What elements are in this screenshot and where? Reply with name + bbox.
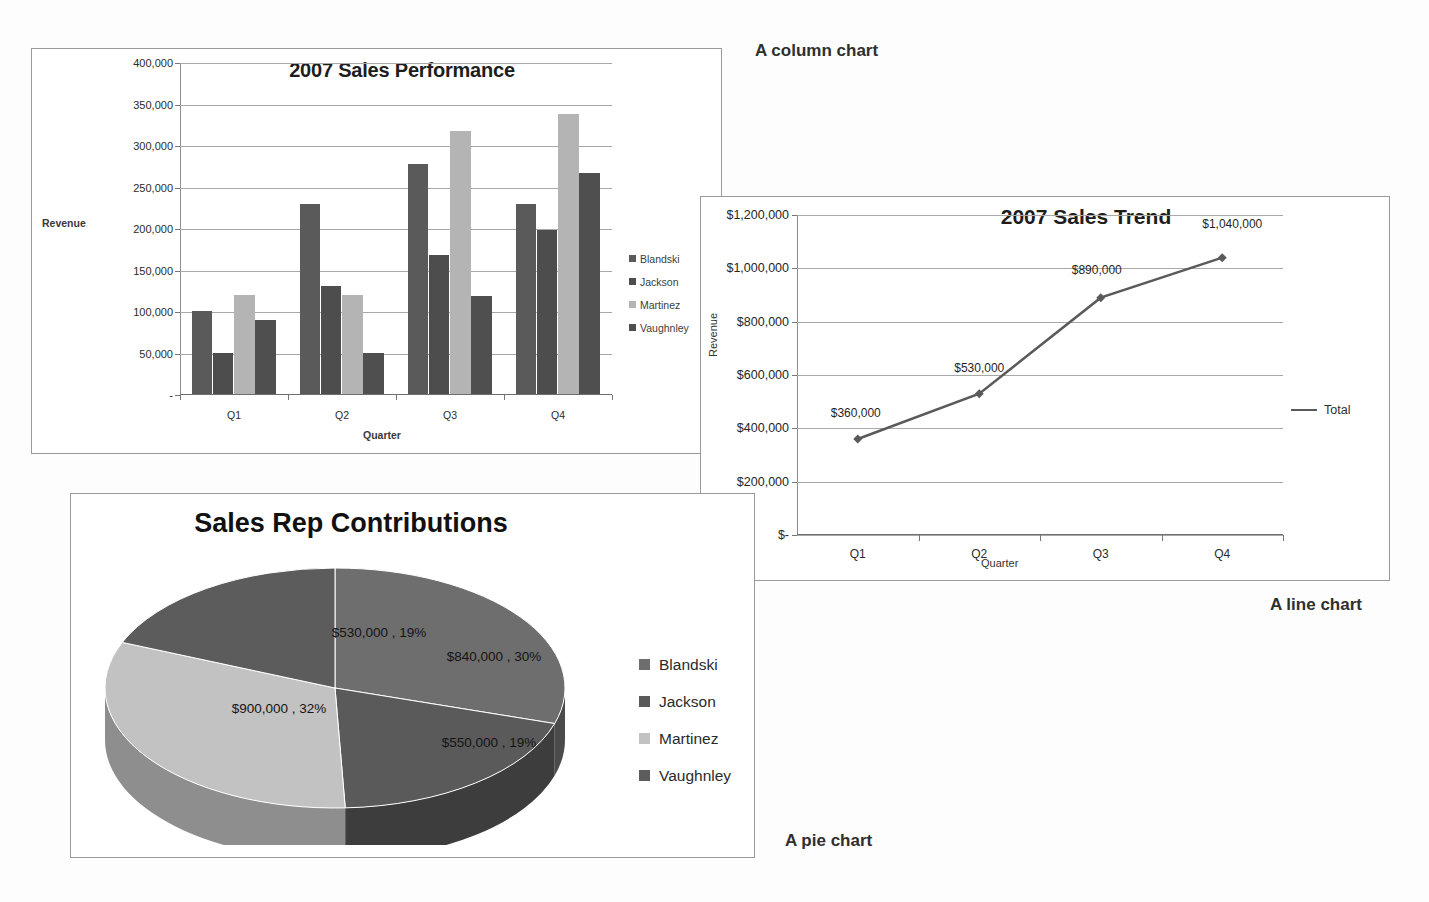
pie-data-label-martinez: $900,000 , 32% [232, 701, 327, 716]
line-chart-y-axis-title: Revenue [707, 313, 719, 357]
data-point-q4 [1218, 253, 1227, 262]
bar-jackson-q4 [537, 230, 558, 394]
y-tick-label: 300,000 [133, 140, 173, 152]
column-chart-x-axis-title: Quarter [142, 429, 622, 441]
bar-blandski-q4 [516, 204, 537, 394]
legend-item-jackson[interactable]: Jackson [639, 683, 731, 720]
x-tick-mark [504, 395, 505, 400]
line-chart-plot-area: $-$200,000$400,000$600,000$800,000$1,000… [797, 215, 1283, 535]
data-point-q1 [853, 435, 862, 444]
bar-vaughnley-q2 [363, 353, 384, 395]
bar-vaughnley-q1 [255, 320, 276, 394]
legend-swatch-icon [639, 696, 650, 707]
legend-item-martinez[interactable]: Martinez [639, 720, 731, 757]
x-tick-label: Q1 [850, 547, 866, 561]
x-tick-label: Q4 [551, 409, 565, 421]
x-tick-label: Q4 [1214, 547, 1230, 561]
legend-label: Vaughnley [640, 322, 689, 334]
bar-jackson-q3 [429, 255, 450, 394]
column-chart-plot-area: -50,000100,000150,000200,000250,000300,0… [180, 63, 612, 395]
pie-data-label-vaughnley: $530,000 , 19% [332, 625, 427, 640]
legend-label: Blandski [659, 656, 718, 674]
annotation-line-chart: A line chart [1270, 595, 1362, 615]
y-tick-label: $400,000 [737, 421, 789, 435]
data-label-q4: $1,040,000 [1202, 217, 1262, 231]
pie-data-label-jackson: $550,000 , 19% [442, 735, 537, 750]
y-tick-mark [792, 535, 797, 536]
y-tick-label: 150,000 [133, 265, 173, 277]
y-tick-label: $800,000 [737, 315, 789, 329]
y-tick-label: $600,000 [737, 368, 789, 382]
bar-martinez-q3 [450, 131, 471, 394]
x-tick-label: Q3 [1093, 547, 1109, 561]
y-tick-label: 100,000 [133, 306, 173, 318]
x-tick-mark [1283, 535, 1284, 541]
x-tick-label: Q2 [335, 409, 349, 421]
annotation-pie-chart: A pie chart [785, 831, 872, 851]
legend-label: Blandski [640, 253, 680, 265]
bar-vaughnley-q4 [579, 173, 600, 394]
legend-swatch-icon [639, 659, 650, 670]
bar-martinez-q2 [342, 295, 363, 394]
column-chart-panel[interactable]: 2007 Sales Performance Revenue Quarter -… [31, 48, 722, 454]
data-label-q3: $890,000 [1072, 263, 1122, 277]
y-tick-label: - [169, 389, 173, 401]
legend-label: Jackson [659, 693, 716, 711]
column-chart-y-axis-title: Revenue [42, 217, 86, 229]
legend-swatch-icon [629, 278, 636, 285]
x-tick-label: Q2 [971, 547, 987, 561]
y-tick-label: $1,000,000 [726, 261, 789, 275]
bar-vaughnley-q3 [471, 296, 492, 394]
x-tick-label: Q3 [443, 409, 457, 421]
y-tick-label: 50,000 [139, 348, 173, 360]
bar-jackson-q1 [213, 353, 234, 395]
legend-swatch-icon [629, 255, 636, 262]
x-tick-mark [1162, 535, 1163, 541]
legend-line-swatch [1291, 409, 1317, 411]
legend-item-vaughnley[interactable]: Vaughnley [639, 757, 731, 794]
annotation-column-chart: A column chart [755, 41, 878, 61]
legend-swatch-icon [629, 324, 636, 331]
y-tick-label: 400,000 [133, 57, 173, 69]
x-tick-mark [612, 395, 613, 400]
y-tick-label: $1,200,000 [726, 208, 789, 222]
bar-martinez-q4 [558, 114, 579, 394]
line-chart-panel[interactable]: 2007 Sales Trend Revenue Quarter $-$200,… [700, 196, 1390, 581]
bar-jackson-q2 [321, 286, 342, 394]
data-label-q1: $360,000 [831, 406, 881, 420]
x-tick-mark [919, 535, 920, 541]
legend-swatch-icon [629, 301, 636, 308]
pie-chart-title: Sales Rep Contributions [71, 508, 631, 539]
x-tick-mark [180, 395, 181, 400]
y-tick-label: 200,000 [133, 223, 173, 235]
pie-chart-legend[interactable]: BlandskiJacksonMartinezVaughnley [639, 646, 731, 794]
legend-swatch-icon [639, 770, 650, 781]
legend-label: Martinez [659, 730, 718, 748]
pie-data-label-blandski: $840,000 , 30% [447, 649, 542, 664]
y-tick-label: 250,000 [133, 182, 173, 194]
legend-label: Vaughnley [659, 767, 731, 785]
bar-blandski-q3 [408, 164, 429, 394]
pie-chart-graphic [89, 560, 629, 845]
line-chart-series-total [797, 215, 1283, 535]
x-tick-label: Q1 [227, 409, 241, 421]
x-tick-mark [396, 395, 397, 400]
legend-label: Jackson [640, 276, 679, 288]
y-tick-label: $- [778, 528, 789, 542]
bar-blandski-q1 [192, 311, 213, 394]
legend-item-blandski[interactable]: Blandski [639, 646, 731, 683]
x-tick-mark [288, 395, 289, 400]
bar-martinez-q1 [234, 295, 255, 394]
legend-item-total: Total [1324, 403, 1350, 417]
column-chart-bars [180, 63, 612, 395]
data-label-q2: $530,000 [954, 361, 1004, 375]
line-chart-legend[interactable]: Total [1291, 403, 1350, 417]
legend-swatch-icon [639, 733, 650, 744]
pie-chart-panel[interactable]: Sales Rep Contributions $840,000 , 30%$5… [70, 493, 755, 858]
y-tick-label: 350,000 [133, 99, 173, 111]
bar-blandski-q2 [300, 204, 321, 394]
legend-label: Martinez [640, 299, 680, 311]
pie-chart-plot-area: $840,000 , 30%$550,000 , 19%$900,000 , 3… [89, 560, 629, 845]
x-tick-mark [1040, 535, 1041, 541]
y-tick-label: $200,000 [737, 475, 789, 489]
